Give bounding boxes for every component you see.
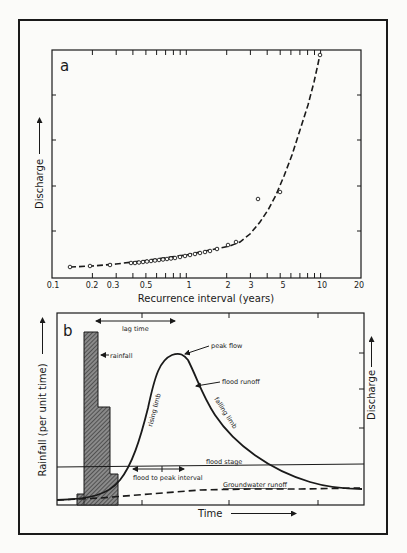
xtick-5: 5 — [280, 281, 285, 290]
falling-limb-label: falling limb — [212, 396, 238, 431]
xtick-10: 10 — [317, 281, 327, 290]
y-axis-label-b-left: Rainfall (per unit time) — [37, 318, 48, 477]
x-axis-label-a: Recurrence interval (years) — [138, 293, 274, 304]
xtick-0.1: 0.1 — [47, 281, 60, 290]
fitted-curve — [70, 54, 320, 267]
groundwater-runoff-label: Groundwater runoff — [223, 481, 287, 489]
xtick-0.5: 0.5 — [140, 281, 153, 290]
flood-to-peak-label: flood to peak interval — [133, 474, 203, 482]
xtick-2: 2 — [225, 281, 230, 290]
peak-flow-label: peak flow — [211, 342, 243, 350]
x-axis-label-b: Time — [197, 508, 222, 519]
rainfall-label: rainfall — [110, 352, 133, 360]
lag-time-label: lag time — [122, 325, 149, 333]
svg-text:Rainfall (per unit time): Rainfall (per unit time) — [37, 363, 48, 476]
plot-a-frame — [52, 50, 361, 278]
flood-stage-label: flood stage — [206, 458, 242, 466]
xtick-1: 1 — [186, 281, 191, 290]
figure-svg: a — [0, 0, 407, 553]
y-axis-label-a: Discharge — [34, 118, 45, 209]
y-axis-label-b-right: Discharge — [366, 337, 377, 420]
data-points-a — [68, 53, 322, 269]
xtick-0.3: 0.3 — [107, 281, 120, 290]
panel-a-label: a — [60, 57, 69, 75]
rising-limb-label: rising limb — [146, 393, 163, 428]
panel-b-label: b — [63, 322, 73, 340]
x-tick-labels-a: 0.1 0.2 0.3 0.5 1 2 3 5 10 20 — [47, 281, 364, 290]
panel-b: b lag time rainfall peak flow flood runo… — [37, 313, 377, 519]
xtick-20: 20 — [354, 281, 364, 290]
flood-runoff-label: flood runoff — [222, 378, 260, 386]
panel-a: a — [34, 50, 364, 304]
y-ticks-a — [52, 95, 361, 231]
xtick-0.2: 0.2 — [86, 281, 99, 290]
x-ticks-a — [92, 50, 320, 278]
xtick-3: 3 — [248, 281, 253, 290]
svg-text:Discharge: Discharge — [366, 370, 377, 420]
svg-text:Discharge: Discharge — [34, 159, 45, 209]
